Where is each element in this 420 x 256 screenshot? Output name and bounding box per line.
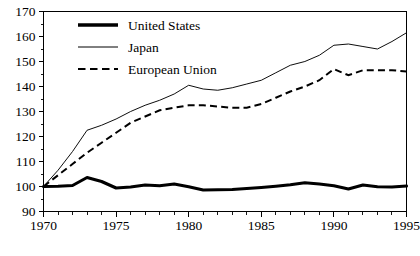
y-tick-label: 110: [16, 154, 36, 169]
x-tick-label: 1995: [393, 218, 420, 233]
x-tick-label: 1990: [320, 218, 347, 233]
y-tick-label: 160: [15, 29, 36, 44]
y-tick-label: 150: [15, 54, 36, 69]
line-chart: 90100110120130140150160170 1970197519801…: [0, 0, 420, 256]
x-axis-ticks: [44, 212, 407, 217]
legend-label-japan: Japan: [128, 40, 159, 55]
y-tick-label: 120: [15, 129, 36, 144]
legend-label-united-states: United States: [128, 18, 200, 33]
y-tick-label: 170: [15, 4, 36, 19]
y-axis-ticks: [39, 12, 44, 212]
legend-item-united-states: United States: [78, 18, 200, 33]
x-axis-tick-labels: 197019751980198519901995: [30, 218, 420, 233]
x-tick-label: 1985: [248, 218, 275, 233]
legend-item-european-union: European Union: [78, 62, 217, 77]
y-tick-label: 100: [15, 179, 36, 194]
series-line-united-states: [44, 178, 407, 191]
legend-label-european-union: European Union: [128, 62, 217, 77]
x-tick-label: 1970: [30, 218, 57, 233]
y-tick-label: 130: [15, 104, 36, 119]
data-series-group: [44, 33, 407, 190]
x-tick-label: 1980: [175, 218, 202, 233]
y-axis-tick-labels: 90100110120130140150160170: [15, 4, 36, 219]
chart-container: 90100110120130140150160170 1970197519801…: [0, 0, 420, 256]
series-line-japan: [44, 33, 407, 187]
x-tick-label: 1975: [103, 218, 130, 233]
series-line-european-union: [44, 69, 407, 187]
y-tick-label: 140: [15, 79, 36, 94]
legend-item-japan: Japan: [78, 40, 159, 55]
chart-legend: United States Japan European Union: [78, 18, 217, 77]
